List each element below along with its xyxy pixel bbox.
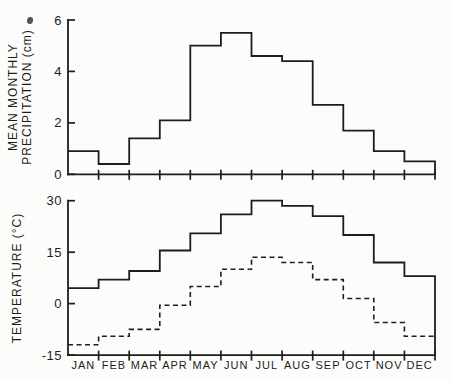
mean-monthly-precipitation-cm-step-line (68, 33, 435, 174)
precipitation-y-tick-label-0: 0 (54, 167, 62, 182)
precipitation-y-tick-label-4: 4 (54, 64, 62, 79)
precipitation-y-tick-label-2: 2 (54, 115, 62, 130)
chart-canvas: 0246-1501530JANFEBMARAPRMAYJUNJULAUGSEPO… (0, 0, 453, 381)
month-label-feb: FEB (102, 359, 126, 371)
temperature-high-c-step-line (68, 201, 435, 355)
month-label-jun: JUN (224, 359, 248, 371)
temperature-y-tick-label-0: 0 (54, 296, 62, 311)
temperature-y-tick-label--15: -15 (42, 348, 62, 363)
climograph-figure: MEAN MONTHLY PRECIPITATION (cm) TEMPERAT… (0, 0, 453, 381)
precipitation-y-tick-label-6: 6 (54, 13, 62, 28)
month-label-sep: SEP (315, 359, 340, 371)
month-label-aug: AUG (284, 359, 311, 371)
month-label-may: MAY (193, 359, 219, 371)
month-label-dec: DEC (407, 359, 433, 371)
month-label-apr: APR (162, 359, 188, 371)
temperature-y-tick-label-15: 15 (47, 245, 62, 260)
month-label-jan: JAN (71, 359, 95, 371)
temperature-low-c-step-line (68, 257, 435, 345)
month-label-jul: JUL (256, 359, 279, 371)
month-label-nov: NOV (376, 359, 403, 371)
month-label-oct: OCT (345, 359, 371, 371)
temperature-y-tick-label-30: 30 (47, 193, 62, 208)
month-label-mar: MAR (131, 359, 158, 371)
